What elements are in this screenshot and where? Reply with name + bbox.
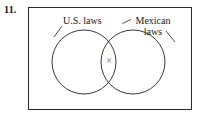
right-set-label-line1: Mexican: [136, 15, 171, 26]
right-set-label: Mexican laws: [132, 15, 174, 37]
x-mark: ×: [106, 55, 112, 66]
leader-line-mexican-laws-left: [123, 20, 132, 24]
figure-page: 11. × U.S. laws Mexican laws: [0, 0, 203, 120]
leader-line-us-laws: [54, 26, 62, 37]
right-set-label-line2: laws: [132, 26, 174, 37]
left-set-label: U.S. laws: [63, 15, 102, 26]
